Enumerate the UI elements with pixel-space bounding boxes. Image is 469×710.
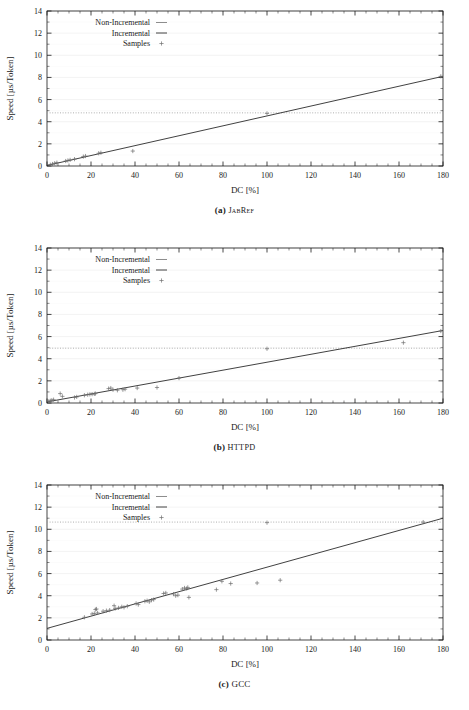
svg-text:0: 0: [45, 171, 49, 180]
svg-text:20: 20: [87, 408, 95, 417]
svg-text:80: 80: [219, 408, 227, 417]
svg-text:20: 20: [87, 645, 95, 654]
svg-text:Speed [µs/Token]: Speed [µs/Token]: [5, 531, 15, 595]
figure-speed-vs-dc: 02040608010012014016018002468101214DC [%…: [0, 0, 469, 710]
svg-text:40: 40: [131, 408, 139, 417]
chart-panel-b: 02040608010012014016018002468101214DC [%…: [0, 237, 469, 474]
svg-text:80: 80: [219, 645, 227, 654]
caption-a-label: (a): [215, 205, 226, 215]
plot-area-a: 02040608010012014016018002468101214DC [%…: [0, 0, 469, 200]
svg-text:0: 0: [38, 399, 42, 408]
svg-text:100: 100: [261, 408, 273, 417]
svg-text:10: 10: [34, 51, 42, 60]
svg-text:10: 10: [34, 288, 42, 297]
svg-text:120: 120: [305, 408, 317, 417]
svg-text:160: 160: [393, 171, 405, 180]
svg-text:8: 8: [38, 73, 42, 82]
svg-text:140: 140: [349, 645, 361, 654]
caption-c: (c) GCC: [0, 679, 469, 689]
svg-text:20: 20: [87, 171, 95, 180]
svg-text:4: 4: [38, 355, 42, 364]
svg-text:180: 180: [437, 408, 449, 417]
svg-text:0: 0: [45, 408, 49, 417]
chart-svg-b: 02040608010012014016018002468101214DC [%…: [0, 237, 469, 437]
svg-text:60: 60: [175, 408, 183, 417]
svg-text:40: 40: [131, 171, 139, 180]
svg-text:160: 160: [393, 645, 405, 654]
svg-text:180: 180: [437, 171, 449, 180]
svg-text:0: 0: [45, 645, 49, 654]
svg-text:DC [%]: DC [%]: [231, 185, 259, 195]
caption-c-label: (c): [218, 679, 229, 689]
svg-text:6: 6: [38, 570, 42, 579]
svg-text:4: 4: [38, 118, 42, 127]
svg-text:2: 2: [38, 614, 42, 623]
svg-text:6: 6: [38, 96, 42, 105]
plot-area-c: 02040608010012014016018002468101214DC [%…: [0, 474, 469, 674]
svg-text:Speed [µs/Token]: Speed [µs/Token]: [5, 294, 15, 358]
chart-panel-c: 02040608010012014016018002468101214DC [%…: [0, 474, 469, 710]
svg-text:8: 8: [38, 547, 42, 556]
svg-text:Non-Incremental: Non-Incremental: [95, 492, 150, 501]
svg-text:180: 180: [437, 645, 449, 654]
svg-text:Non-Incremental: Non-Incremental: [95, 255, 150, 264]
chart-svg-c: 02040608010012014016018002468101214DC [%…: [0, 474, 469, 674]
caption-b-label: (b): [214, 442, 226, 452]
svg-text:Samples: Samples: [123, 39, 150, 48]
caption-a: (a) JabRef: [0, 205, 469, 215]
caption-a-name: JabRef: [228, 206, 254, 215]
svg-text:120: 120: [305, 645, 317, 654]
chart-svg-a: 02040608010012014016018002468101214DC [%…: [0, 0, 469, 200]
svg-text:6: 6: [38, 333, 42, 342]
svg-text:Incremental: Incremental: [112, 266, 151, 275]
plot-area-b: 02040608010012014016018002468101214DC [%…: [0, 237, 469, 437]
svg-text:DC [%]: DC [%]: [231, 659, 259, 669]
svg-text:12: 12: [34, 503, 42, 512]
svg-text:40: 40: [131, 645, 139, 654]
svg-text:140: 140: [349, 171, 361, 180]
svg-text:14: 14: [34, 7, 42, 16]
chart-panel-a: 02040608010012014016018002468101214DC [%…: [0, 0, 469, 237]
svg-text:80: 80: [219, 171, 227, 180]
caption-c-name: GCC: [231, 679, 250, 689]
svg-text:8: 8: [38, 310, 42, 319]
svg-text:2: 2: [38, 377, 42, 386]
svg-text:60: 60: [175, 171, 183, 180]
svg-text:0: 0: [38, 162, 42, 171]
svg-text:140: 140: [349, 408, 361, 417]
svg-text:14: 14: [34, 481, 42, 490]
svg-text:10: 10: [34, 525, 42, 534]
svg-text:Incremental: Incremental: [112, 503, 151, 512]
caption-b-name: HTTPD: [228, 443, 256, 452]
svg-text:Incremental: Incremental: [112, 29, 151, 38]
svg-text:Non-Incremental: Non-Incremental: [95, 18, 150, 27]
svg-text:2: 2: [38, 140, 42, 149]
svg-text:12: 12: [34, 266, 42, 275]
svg-text:100: 100: [261, 171, 273, 180]
svg-text:0: 0: [38, 636, 42, 645]
svg-text:14: 14: [34, 244, 42, 253]
svg-text:Samples: Samples: [123, 276, 150, 285]
svg-text:100: 100: [261, 645, 273, 654]
svg-text:4: 4: [38, 592, 42, 601]
svg-text:60: 60: [175, 645, 183, 654]
svg-text:160: 160: [393, 408, 405, 417]
svg-text:120: 120: [305, 171, 317, 180]
svg-text:Samples: Samples: [123, 513, 150, 522]
svg-text:Speed [µs/Token]: Speed [µs/Token]: [5, 57, 15, 121]
caption-b: (b) HTTPD: [0, 442, 469, 452]
svg-text:DC [%]: DC [%]: [231, 422, 259, 432]
svg-text:12: 12: [34, 29, 42, 38]
